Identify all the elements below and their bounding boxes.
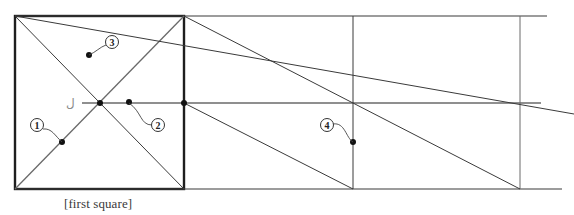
marker-2: 2 [129, 103, 165, 132]
marker-number: 3 [110, 37, 115, 48]
leader-line [333, 124, 353, 142]
leader-line [43, 129, 62, 142]
marker-1: 1 [31, 119, 63, 143]
point-center [97, 100, 103, 106]
marker-number: 4 [325, 120, 330, 131]
marker-4: 4 [321, 119, 354, 143]
arabic-glyph-label: ل [66, 96, 75, 110]
figure-caption: [first square] [64, 196, 132, 212]
leader-line [89, 45, 106, 55]
point-right-mid [181, 100, 187, 106]
numbered-markers: 1234 [31, 36, 354, 143]
long-diag-a [15, 16, 574, 114]
marker-number: 1 [35, 120, 40, 131]
leader-line [129, 103, 152, 125]
marker-number: 2 [156, 120, 161, 131]
marker-3: 3 [89, 36, 119, 56]
geometric-construction-diagram: 1234 ل [0, 0, 574, 215]
long-diag-c [184, 103, 353, 189]
